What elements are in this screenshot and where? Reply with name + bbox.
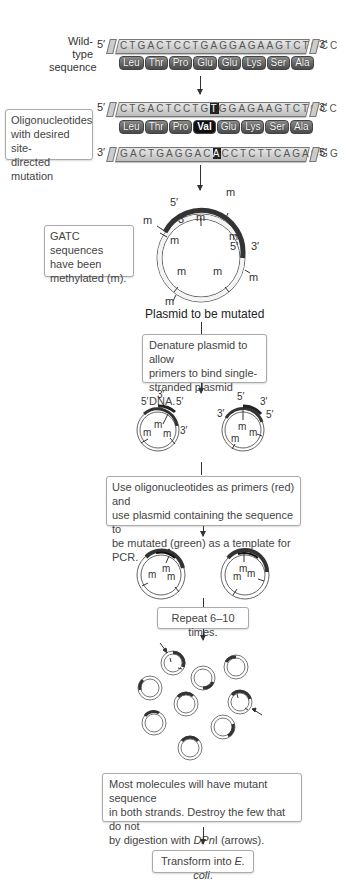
step-line: in both strands. Destroy the few that do… xyxy=(109,805,295,833)
digest-step-box: Most molecules will have mutant sequence… xyxy=(102,773,302,822)
text-segment: . xyxy=(210,869,213,881)
text-segment: by digestion with xyxy=(109,834,193,846)
plasmid-population xyxy=(0,0,346,885)
transform-step-box: Transform into E. coli. xyxy=(152,850,254,873)
text-segment: Transform into xyxy=(161,855,235,867)
text-segment: I (arrows). xyxy=(215,834,265,846)
step-line: Most molecules will have mutant sequence xyxy=(109,777,295,805)
arrow-down xyxy=(203,827,204,844)
